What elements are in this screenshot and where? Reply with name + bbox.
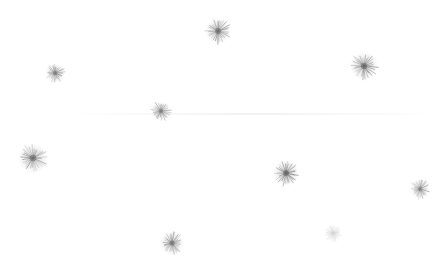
starburst-particle — [346, 48, 382, 84]
starburst-particle — [406, 175, 434, 203]
light-streak — [70, 113, 440, 115]
starburst-particle — [147, 97, 175, 125]
starburst-particle — [320, 220, 346, 246]
starburst-particle — [156, 227, 188, 259]
starburst-particle — [269, 156, 303, 190]
starburst-particle — [201, 14, 235, 48]
starburst-particle — [14, 139, 52, 177]
starburst-particle — [41, 59, 69, 87]
particle-field — [0, 0, 448, 278]
